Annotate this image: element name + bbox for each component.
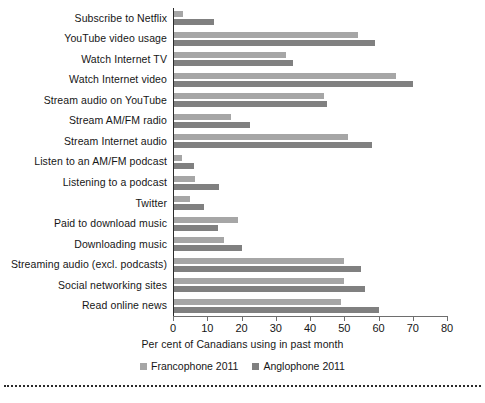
x-tick: [207, 316, 208, 321]
legend-item: Francophone 2011: [140, 360, 238, 372]
category-label: Listening to a podcast: [0, 177, 171, 188]
chart-row: Watch Internet TV: [0, 49, 485, 70]
bar-francophone: [173, 299, 341, 305]
bar-anglophone: [173, 19, 214, 25]
x-tick: [310, 316, 311, 321]
x-tick: [276, 316, 277, 321]
bar-anglophone: [173, 225, 218, 231]
x-tick-label: 60: [364, 322, 394, 334]
chart-row: Listening to a podcast: [0, 172, 485, 193]
x-tick: [379, 316, 380, 321]
x-tick-label: 30: [261, 322, 291, 334]
category-label: Watch Internet video: [0, 74, 171, 85]
bar-group: [171, 275, 485, 296]
category-label: Stream audio on YouTube: [0, 95, 171, 106]
x-tick-label: 80: [432, 322, 462, 334]
bar-francophone: [173, 114, 231, 120]
bar-francophone: [173, 73, 396, 79]
bar-anglophone: [173, 163, 194, 169]
x-tick-label: 20: [227, 322, 257, 334]
bar-group: [171, 8, 485, 29]
bar-anglophone: [173, 101, 327, 107]
bar-group: [171, 131, 485, 152]
bar-group: [171, 172, 485, 193]
x-tick: [447, 316, 448, 321]
bar-anglophone: [173, 286, 365, 292]
category-label: Stream AM/FM radio: [0, 115, 171, 126]
x-tick: [413, 316, 414, 321]
chart-row: Stream AM/FM radio: [0, 111, 485, 132]
chart-row: Social networking sites: [0, 275, 485, 296]
chart-row: Stream audio on YouTube: [0, 90, 485, 111]
bar-group: [171, 295, 485, 316]
category-label: Watch Internet TV: [0, 54, 171, 65]
bar-group: [171, 29, 485, 50]
bar-anglophone: [173, 204, 204, 210]
bar-francophone: [173, 196, 190, 202]
category-label: Subscribe to Netflix: [0, 13, 171, 24]
x-tick-label: 10: [192, 322, 222, 334]
x-tick-label: 40: [295, 322, 325, 334]
chart-row: Read online news: [0, 295, 485, 316]
category-label: Streaming audio (excl. podcasts): [0, 259, 171, 270]
chart-row: Listen to an AM/FM podcast: [0, 152, 485, 173]
bar-francophone: [173, 278, 344, 284]
chart-row: Streaming audio (excl. podcasts): [0, 254, 485, 275]
bottom-dotted-divider: [4, 385, 481, 387]
bar-group: [171, 193, 485, 214]
plot-area: Subscribe to NetflixYouTube video usageW…: [0, 8, 485, 326]
bar-chart-figure: Subscribe to NetflixYouTube video usageW…: [0, 0, 485, 403]
chart-row: Watch Internet video: [0, 70, 485, 91]
category-label: Paid to download music: [0, 218, 171, 229]
legend-label: Francophone 2011: [151, 360, 238, 372]
chart-row: Downloading music: [0, 234, 485, 255]
bar-anglophone: [173, 184, 219, 190]
bar-anglophone: [173, 60, 293, 66]
bar-anglophone: [173, 40, 375, 46]
bar-anglophone: [173, 81, 413, 87]
chart-row: YouTube video usage: [0, 29, 485, 50]
category-label: Read online news: [0, 300, 171, 311]
legend-label: Anglophone 2011: [263, 360, 345, 372]
x-tick-label: 0: [158, 322, 188, 334]
bar-group: [171, 213, 485, 234]
bar-francophone: [173, 176, 195, 182]
y-axis-line: [173, 8, 174, 316]
category-label: Listen to an AM/FM podcast: [0, 156, 171, 167]
bar-group: [171, 111, 485, 132]
bar-anglophone: [173, 266, 361, 272]
bar-anglophone: [173, 245, 242, 251]
category-label: Social networking sites: [0, 280, 171, 291]
bar-group: [171, 152, 485, 173]
chart-row: Subscribe to Netflix: [0, 8, 485, 29]
bar-francophone: [173, 217, 238, 223]
chart-row: Twitter: [0, 193, 485, 214]
chart-row: Stream Internet audio: [0, 131, 485, 152]
legend-swatch-icon: [252, 363, 259, 370]
x-tick: [242, 316, 243, 321]
bar-francophone: [173, 155, 182, 161]
legend-item: Anglophone 2011: [252, 360, 345, 372]
x-tick-label: 50: [329, 322, 359, 334]
bar-anglophone: [173, 122, 250, 128]
bar-francophone: [173, 258, 344, 264]
x-tick: [344, 316, 345, 321]
x-axis-title: Per cent of Canadians using in past mont…: [0, 338, 485, 350]
category-label: Downloading music: [0, 239, 171, 250]
bar-francophone: [173, 32, 358, 38]
bar-anglophone: [173, 307, 379, 313]
bar-group: [171, 90, 485, 111]
bar-group: [171, 49, 485, 70]
bar-francophone: [173, 134, 348, 140]
bar-francophone: [173, 237, 224, 243]
chart-row: Paid to download music: [0, 213, 485, 234]
bar-group: [171, 70, 485, 91]
x-tick-label: 70: [398, 322, 428, 334]
bar-group: [171, 234, 485, 255]
category-label: Twitter: [0, 198, 171, 209]
bar-francophone: [173, 93, 324, 99]
category-label: Stream Internet audio: [0, 136, 171, 147]
legend-swatch-icon: [140, 363, 147, 370]
bar-francophone: [173, 52, 286, 58]
x-tick: [173, 316, 174, 321]
